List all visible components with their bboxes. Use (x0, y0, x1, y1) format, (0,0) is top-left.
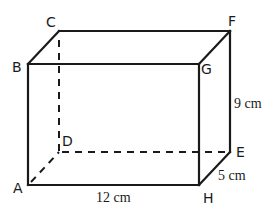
prism-diagram: C F B G D E A H 9 cm 5 cm 12 cm (0, 0, 280, 216)
vertex-label-a: A (13, 180, 23, 196)
vertex-label-b: B (12, 59, 22, 75)
vertex-label-h: H (203, 190, 214, 206)
edge-gf (199, 31, 230, 64)
vertex-label-d: D (62, 133, 73, 149)
height-label: 9 cm (234, 96, 262, 111)
vertex-label-g: G (201, 61, 212, 77)
edge-bc (28, 31, 59, 64)
vertex-label-f: F (228, 13, 236, 29)
edge-ad (31, 152, 59, 182)
vertex-label-e: E (236, 144, 245, 160)
width-label: 5 cm (218, 168, 246, 183)
length-label: 12 cm (96, 190, 131, 205)
vertex-label-c: C (46, 14, 56, 30)
